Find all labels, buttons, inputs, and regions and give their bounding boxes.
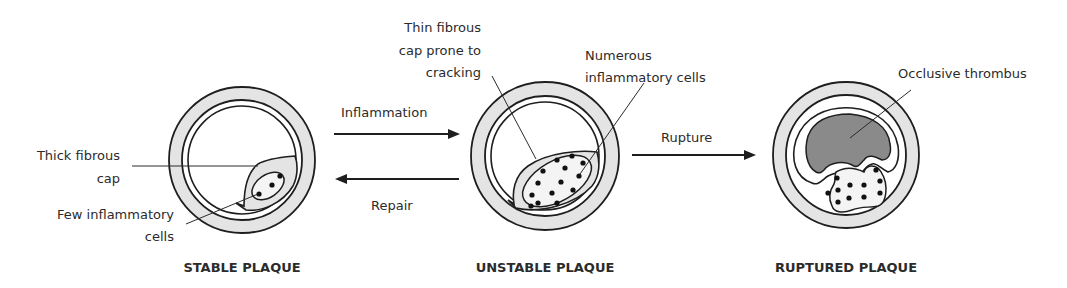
inflammation-arrow-icon <box>334 129 460 139</box>
rupture-arrow-icon <box>632 150 756 160</box>
repair-label: Repair <box>371 198 413 213</box>
inflammatory-cell <box>877 178 882 183</box>
repair-arrow-icon <box>335 174 459 184</box>
inflammatory-cell <box>570 187 575 192</box>
few-cells-label-2: cells <box>145 229 174 244</box>
thin-cap-label-3: cracking <box>426 65 481 80</box>
inflammatory-cell <box>835 187 840 192</box>
inflammatory-cell <box>277 173 282 178</box>
inflammatory-cell <box>877 190 882 195</box>
thick-cap-label-2: cap <box>97 171 120 186</box>
inflammatory-cell <box>576 173 581 178</box>
inflammatory-cell <box>558 179 563 184</box>
thick-cap-label-1: Thick fibrous <box>36 148 120 163</box>
inflammatory-cell <box>529 192 534 197</box>
inflammatory-cell <box>269 182 274 187</box>
inflammatory-cell <box>554 200 559 205</box>
inflammatory-cell <box>834 175 839 180</box>
ruptured-plaque-figure <box>773 82 919 228</box>
inflammatory-cell <box>562 165 567 170</box>
rupture-label: Rupture <box>661 130 712 145</box>
stable-plaque-title: STABLE PLAQUE <box>183 260 300 275</box>
ruptured-plaque-title: RUPTURED PLAQUE <box>775 260 917 275</box>
thin-cap-label-2: cap prone to <box>399 43 481 58</box>
numerous-cells-label-2: inflammatory cells <box>585 70 706 85</box>
inflammatory-cell <box>825 190 830 195</box>
inflammatory-cell <box>835 199 840 204</box>
inflammation-label: Inflammation <box>341 105 427 120</box>
inflammatory-cell <box>549 190 554 195</box>
numerous-cells-label-1: Numerous <box>585 48 652 63</box>
inflammatory-cell <box>528 203 533 208</box>
inflammatory-cell <box>873 167 878 172</box>
inflammatory-cell <box>540 168 545 173</box>
plaque-progression-diagram: Thick fibrous cap Few inflammatory cells… <box>0 0 1067 288</box>
inflammatory-cell <box>861 182 866 187</box>
inflammatory-cell <box>569 153 574 158</box>
inflammatory-cell <box>535 200 540 205</box>
unstable-plaque-title: UNSTABLE PLAQUE <box>476 260 615 275</box>
inflammatory-cell <box>846 195 851 200</box>
inflammatory-cell <box>554 157 559 162</box>
inflammatory-cell <box>861 194 866 199</box>
unstable-plaque-figure <box>471 76 644 230</box>
inflammatory-cell <box>535 180 540 185</box>
occlusive-thrombus-label: Occlusive thrombus <box>898 66 1027 81</box>
thin-cap-label-1: Thin fibrous <box>403 20 481 35</box>
inflammatory-cell <box>847 182 852 187</box>
inflammatory-cell <box>580 160 585 165</box>
few-cells-label-1: Few inflammatory <box>57 207 174 222</box>
